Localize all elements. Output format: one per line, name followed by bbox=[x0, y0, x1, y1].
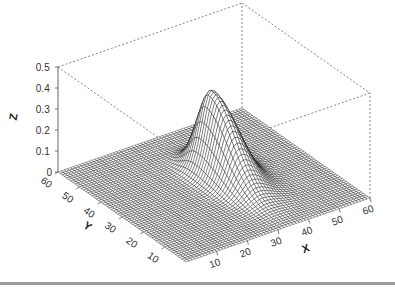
y-tick-label: 30 bbox=[103, 220, 119, 236]
x-axis-label: X bbox=[300, 241, 312, 255]
z-tick-label: 0.5 bbox=[36, 62, 50, 73]
y-axis-label: Y bbox=[81, 219, 94, 233]
z-axis-label: Z bbox=[7, 112, 20, 121]
y-tick-label: 60 bbox=[39, 175, 55, 191]
x-tick-label: 30 bbox=[269, 235, 284, 249]
mesh-surface bbox=[58, 90, 370, 262]
bottom-divider bbox=[0, 282, 395, 285]
z-tick-label: 0.2 bbox=[36, 125, 50, 136]
y-tick-label: 20 bbox=[124, 235, 140, 251]
z-tick-label: 0.3 bbox=[36, 104, 50, 115]
x-tick-label: 60 bbox=[361, 203, 376, 217]
z-axis: 00.10.20.30.40.5 bbox=[36, 62, 58, 178]
x-tick-label: 10 bbox=[208, 256, 223, 270]
z-tick-label: 0.4 bbox=[36, 83, 50, 94]
x-tick-label: 50 bbox=[330, 213, 345, 227]
z-tick-label: 0.1 bbox=[36, 146, 50, 157]
y-tick-label: 10 bbox=[146, 250, 162, 266]
y-tick-label: 50 bbox=[60, 190, 76, 206]
x-tick-label: 40 bbox=[300, 224, 315, 238]
x-tick-label: 20 bbox=[238, 245, 253, 259]
surface-plot: 00.10.20.30.40.5 102030405060 1020304050… bbox=[0, 0, 395, 289]
y-tick-label: 40 bbox=[82, 205, 98, 221]
